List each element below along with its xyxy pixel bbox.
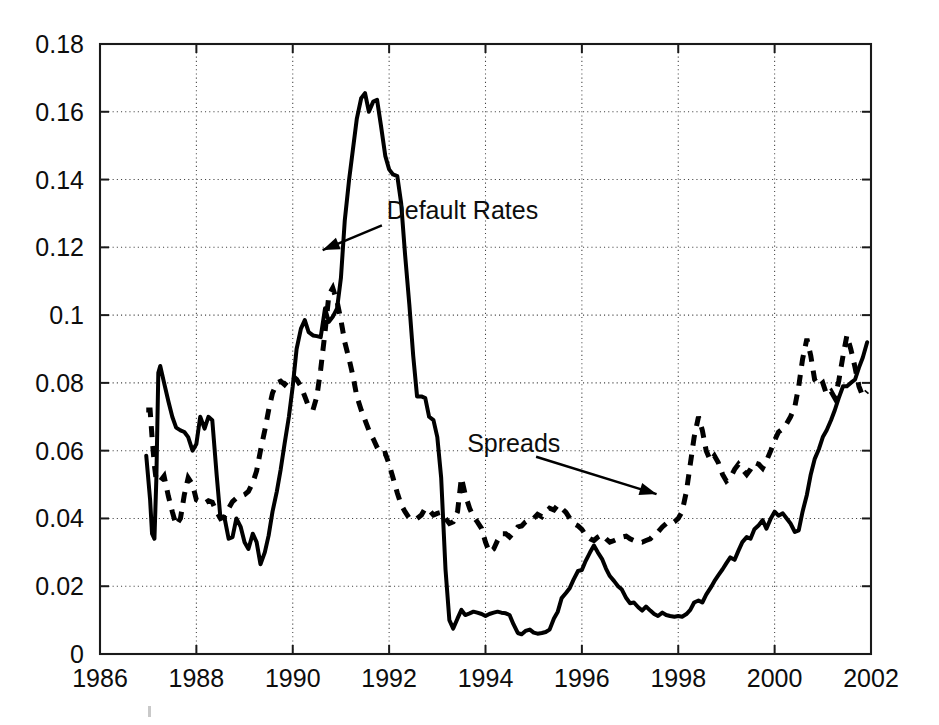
y-tick-label: 0.06 [35, 437, 84, 465]
y-tick-label: 0.1 [49, 301, 84, 329]
x-tick-label: 2002 [843, 664, 899, 692]
annotation-label: Spreads [467, 429, 560, 457]
y-tick-label: 0.14 [35, 166, 84, 194]
y-tick-label: 0.12 [35, 233, 84, 261]
y-tick-label: 0.04 [35, 504, 84, 532]
chart-figure: 00.020.040.060.080.10.120.140.160.181986… [0, 0, 939, 725]
x-tick-label: 1986 [72, 664, 128, 692]
x-tick-label: 1996 [554, 664, 610, 692]
x-tick-label: 1992 [361, 664, 417, 692]
y-tick-label: 0.08 [35, 369, 84, 397]
x-tick-label: 1994 [458, 664, 514, 692]
x-tick-label: 1998 [650, 664, 706, 692]
x-tick-label: 1990 [265, 664, 321, 692]
scan-speck [148, 706, 151, 717]
y-tick-label: 0.18 [35, 30, 84, 58]
y-tick-label: 0.16 [35, 98, 84, 126]
x-tick-label: 2000 [747, 664, 803, 692]
chart-svg: 00.020.040.060.080.10.120.140.160.181986… [0, 0, 939, 725]
y-tick-label: 0.02 [35, 572, 84, 600]
annotation-label: Default Rates [387, 196, 538, 224]
figure-background [0, 0, 939, 725]
x-tick-label: 1988 [169, 664, 225, 692]
